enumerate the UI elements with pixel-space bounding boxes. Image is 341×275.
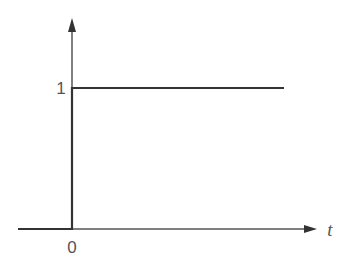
step-signal-line [18, 88, 284, 229]
x-tick-label-0: 0 [67, 238, 76, 257]
x-axis-label: t [327, 219, 333, 240]
y-axis-arrow-icon [68, 18, 76, 32]
x-axis-arrow-icon [304, 225, 317, 233]
step-function-chart: 1 0 t [0, 0, 341, 275]
y-tick-label-1: 1 [56, 79, 65, 98]
